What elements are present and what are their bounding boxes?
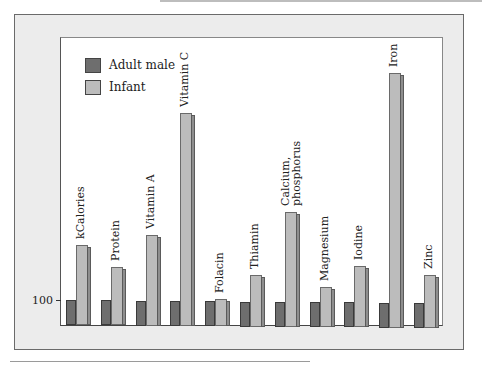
category-label: Magnesium (319, 216, 330, 281)
bar-infant-side (400, 75, 404, 328)
legend-item-adult-male: Adult male (85, 54, 175, 76)
category-label: Vitamin A (145, 174, 156, 229)
infant-swatch (85, 80, 101, 95)
legend-label: Infant (109, 80, 146, 94)
bar-infant-side (122, 269, 126, 325)
bar-infant-side (365, 268, 369, 327)
category-label: kCalories (75, 186, 86, 239)
bar-infant-side (226, 301, 230, 326)
legend: Adult male Infant (85, 54, 175, 98)
bar-infant-side (261, 277, 265, 327)
bar-infant-side (435, 277, 439, 328)
bar-adult-male (379, 303, 389, 328)
legend-label: Adult male (109, 58, 175, 72)
bar-adult-male (414, 303, 424, 328)
bar-infant-side (87, 247, 91, 325)
bar-adult-male (205, 301, 215, 326)
bar-infant-side (157, 237, 161, 326)
category-label: Iron (388, 43, 399, 66)
category-label: Zinc (423, 245, 434, 269)
bar-adult-male (344, 302, 354, 327)
adult-male-swatch (85, 58, 101, 73)
category-label: Vitamin C (179, 52, 190, 107)
bar-infant-side (331, 289, 335, 327)
category-label: Thiamin (249, 223, 260, 269)
legend-item-infant: Infant (85, 76, 175, 98)
category-label: phosphorus (291, 141, 302, 206)
category-label: Iodine (353, 225, 364, 260)
bar-adult-male (101, 300, 111, 325)
bar-adult-male (275, 302, 285, 327)
top-rule (160, 0, 482, 2)
bar-adult-male (66, 300, 76, 325)
category-label: Protein (110, 220, 121, 261)
bar-adult-male (136, 301, 146, 326)
bar-adult-male (310, 302, 320, 327)
bar-adult-male (240, 302, 250, 327)
bar-infant-side (191, 115, 195, 326)
y-tick-100 (56, 300, 61, 301)
bar-infant-side (296, 214, 300, 327)
bar-adult-male (170, 301, 180, 326)
category-label: Folacin (214, 253, 225, 294)
bottom-rule (10, 361, 310, 362)
y-tick-label: 100 (32, 294, 53, 307)
